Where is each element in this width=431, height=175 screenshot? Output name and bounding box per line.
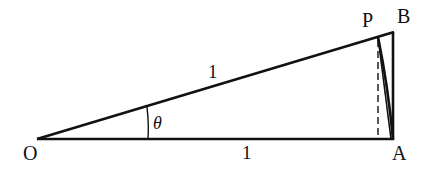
label-base-length: 1 <box>242 142 252 163</box>
angle-arc <box>147 107 148 139</box>
label-a: A <box>392 142 407 164</box>
label-hypotenuse-length: 1 <box>208 61 218 82</box>
label-o: O <box>23 142 37 164</box>
segment-ob <box>37 32 394 139</box>
sector-tangent-diagram: O A B P 1 1 θ <box>0 0 431 175</box>
label-theta: θ <box>153 113 162 133</box>
label-p: P <box>362 9 373 31</box>
sector-arc <box>378 37 393 139</box>
label-b: B <box>397 5 410 27</box>
